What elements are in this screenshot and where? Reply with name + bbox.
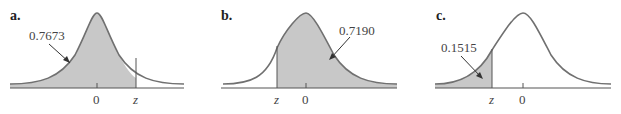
- tick-zero: 0: [93, 92, 100, 108]
- panel-a: a. 0.7673 0 z: [0, 0, 207, 114]
- area-label: 0.7190: [339, 23, 375, 39]
- tick-z: z: [133, 92, 138, 108]
- tick-z: z: [489, 92, 494, 108]
- tick-zero: 0: [302, 92, 309, 108]
- panel-letter: a.: [10, 8, 21, 24]
- normal-curve-b: [205, 0, 412, 114]
- tick-z: z: [274, 92, 279, 108]
- panel-b: b. 0.7190 z 0: [205, 0, 412, 114]
- area-label: 0.1515: [441, 40, 477, 56]
- panel-letter: b.: [221, 8, 232, 24]
- panel-c: c. 0.1515 z 0: [410, 0, 617, 114]
- area-label: 0.7673: [29, 28, 65, 44]
- normal-curve-a: [0, 0, 207, 114]
- tick-zero: 0: [519, 92, 526, 108]
- panel-letter: c.: [436, 8, 446, 24]
